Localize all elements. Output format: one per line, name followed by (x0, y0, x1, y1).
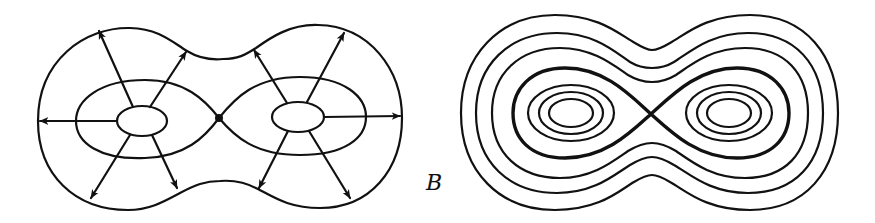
inner-ellipse (686, 85, 772, 141)
saddle-point (215, 114, 223, 122)
panel-label: B (426, 170, 442, 195)
arrow-icon (309, 131, 350, 198)
arrow-icon (91, 135, 130, 198)
inner-ellipse (528, 85, 614, 141)
arrow-icon (324, 116, 400, 117)
arrow-icon (152, 135, 177, 188)
separatrix-left-lobe (76, 80, 219, 158)
inner-ellipse (707, 99, 751, 127)
arrow-icon (254, 50, 287, 103)
left-panel (38, 25, 402, 210)
minimum-right (272, 102, 324, 132)
arrow-icon (307, 33, 344, 102)
arrow-icon (259, 131, 288, 188)
right-panel (461, 15, 838, 210)
figure: B (0, 0, 875, 223)
arrow-icon (99, 31, 133, 107)
inner-ellipse (549, 99, 593, 127)
minimum-left (117, 106, 167, 136)
